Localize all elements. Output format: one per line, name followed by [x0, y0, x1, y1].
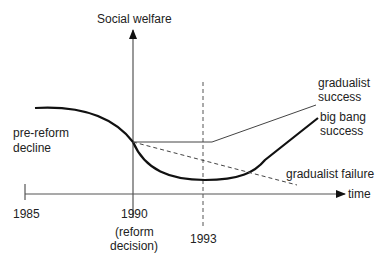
gradualist-success-line	[133, 105, 316, 142]
reform-note-line2: decision)	[110, 239, 158, 253]
pre-reform-label-line1: pre-reform	[13, 126, 69, 140]
big-bang-label-line2: success	[320, 124, 363, 138]
gradualist-success-label-line2: success	[318, 90, 361, 104]
reform-note-line1: (reform	[115, 225, 154, 239]
gradualist-success-label-line1: gradualist	[318, 76, 371, 90]
pre-reform-label-line2: decline	[13, 141, 51, 155]
gradualist-failure-line	[133, 142, 297, 185]
welfare-reform-diagram: Social welfare time 1985 1990 (reform de…	[0, 0, 380, 265]
tick-label-1993: 1993	[190, 232, 217, 246]
x-axis-label: time	[348, 187, 371, 201]
big-bang-label-line1: big bang	[320, 110, 366, 124]
y-axis-label: Social welfare	[97, 12, 172, 26]
gradualist-failure-label: gradualist failure	[286, 167, 374, 181]
tick-label-1985: 1985	[13, 207, 40, 221]
tick-label-1990: 1990	[121, 207, 148, 221]
